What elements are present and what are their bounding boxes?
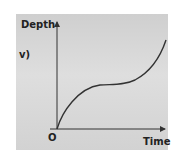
y-axis-label: Depth	[21, 19, 55, 30]
x-axis-label: Time	[143, 136, 171, 147]
part-label: v)	[19, 49, 30, 60]
origin-label: O	[48, 132, 57, 143]
depth-time-graph: Depth v) O Time	[0, 0, 176, 165]
depth-curve	[57, 40, 166, 129]
